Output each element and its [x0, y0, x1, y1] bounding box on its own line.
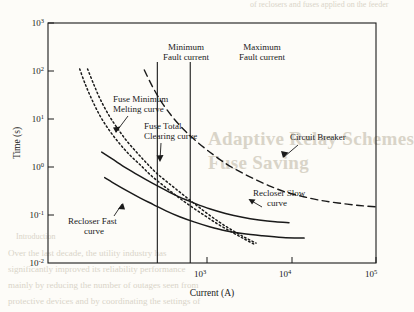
- maximum-fault-label-line1: Maximum: [243, 42, 281, 52]
- circuit-breaker-arrow-line: [284, 145, 298, 157]
- y-tick-label-2: 101: [32, 113, 44, 125]
- y-tick-label-5: 10-2: [30, 257, 44, 269]
- fuse-min-melting-line2: Melting curve: [113, 104, 164, 114]
- fuse-total-clearing-line2: Clearing curve: [144, 131, 197, 141]
- fuse-min-melting-line1: Fuse Minimum: [113, 94, 168, 104]
- y-tick-label-1: 102: [32, 65, 44, 77]
- y-tick-label-3: 100: [32, 161, 44, 173]
- y-axis-ticks: [48, 23, 54, 215]
- minimum-fault-label-line1: Minimum: [168, 42, 204, 52]
- y-tick-label-0: 103: [32, 17, 44, 29]
- x-tick-label-0: 103: [194, 268, 206, 280]
- recloser-slow-arrow-head: [249, 199, 256, 205]
- annotation-minimum-fault: Minimum Fault current: [163, 42, 210, 62]
- recloser-slow-line2: curve: [267, 198, 287, 208]
- x-tick-labels: 103 104 105: [194, 268, 377, 280]
- y-axis-title: Time (s): [12, 127, 23, 159]
- y-tick-labels: 103 102 101 100 10-1 10-2: [30, 17, 44, 269]
- annotation-recloser-fast: Recloser Fast curve: [68, 203, 125, 236]
- annotation-maximum-fault: Maximum Fault current: [239, 42, 286, 62]
- x-tick-label-1: 104: [279, 268, 292, 280]
- recloser-fast-line2: curve: [84, 226, 104, 236]
- annotation-fuse-total-clearing: Fuse Total Clearing curve: [144, 121, 197, 162]
- circuit-breaker-line1: Circuit Breaker: [290, 132, 346, 142]
- x-tick-label-2: 105: [365, 268, 377, 280]
- annotation-circuit-breaker: Circuit Breaker: [281, 132, 346, 158]
- vertical-marker-group: [157, 62, 190, 263]
- recloser-fast-line1: Recloser Fast: [68, 216, 117, 226]
- x-axis-ticks: [207, 257, 376, 263]
- fuse-total-clearing-line1: Fuse Total: [144, 121, 182, 131]
- annotation-recloser-slow: Recloser Slow curve: [249, 188, 306, 208]
- maximum-fault-label-line2: Fault current: [239, 52, 286, 62]
- y-tick-label-4: 10-1: [30, 209, 44, 221]
- recloser-slow-line1: Recloser Slow: [253, 188, 306, 198]
- x-axis-title: Current (A): [190, 288, 235, 299]
- minimum-fault-label-line2: Fault current: [163, 52, 210, 62]
